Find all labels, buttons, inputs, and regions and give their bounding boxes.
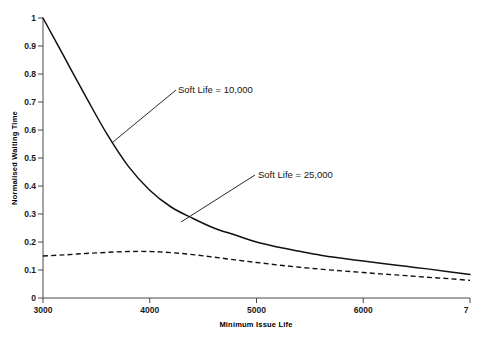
axes-group bbox=[43, 18, 470, 298]
y-tick-label: 0 bbox=[31, 293, 36, 303]
y-tick-label: 0.4 bbox=[24, 181, 36, 191]
x-axis-title: Minimum Issue Life bbox=[219, 320, 292, 329]
x-tick-label: 3000 bbox=[34, 305, 53, 315]
y-tick-label: 0.5 bbox=[24, 153, 36, 163]
annotation-leader-2 bbox=[181, 175, 255, 222]
y-tick-label: 0.3 bbox=[24, 209, 36, 219]
data-series-group bbox=[43, 18, 470, 280]
y-axis-ticks: 00.10.20.30.40.50.60.70.80.91 bbox=[24, 13, 43, 303]
series-line-1 bbox=[43, 18, 470, 274]
annotations-group: Soft Life = 10,000Soft Life = 25,000 bbox=[113, 84, 333, 222]
y-tick-label: 0.8 bbox=[24, 69, 36, 79]
chart-canvas: 00.10.20.30.40.50.60.70.80.91 3000400050… bbox=[0, 0, 477, 342]
x-tick-label: 4000 bbox=[140, 305, 159, 315]
y-tick-label: 0.6 bbox=[24, 125, 36, 135]
y-tick-label: 0.1 bbox=[24, 265, 36, 275]
y-tick-label: 0.9 bbox=[24, 41, 36, 51]
y-tick-label: 1 bbox=[31, 13, 36, 23]
y-tick-label: 0.2 bbox=[24, 237, 36, 247]
y-tick-label: 0.7 bbox=[24, 97, 36, 107]
annotation-label-1: Soft Life = 10,000 bbox=[178, 84, 253, 95]
y-axis-title: Normalised Waiting Time bbox=[10, 111, 19, 205]
x-axis-ticks: 30004000500060007 bbox=[34, 298, 470, 315]
x-tick-label: 7 bbox=[464, 305, 469, 315]
annotation-label-2: Soft Life = 25,000 bbox=[258, 169, 333, 180]
x-tick-label: 5000 bbox=[247, 305, 266, 315]
chart-figure: 00.10.20.30.40.50.60.70.80.91 3000400050… bbox=[0, 0, 477, 342]
annotation-leader-1 bbox=[113, 90, 176, 142]
x-tick-label: 6000 bbox=[354, 305, 373, 315]
